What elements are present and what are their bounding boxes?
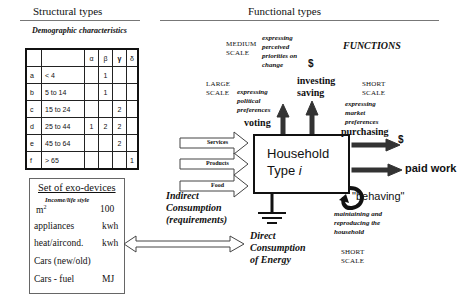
medium-scale-desc: expressing perceived priorities on chang… [262,34,304,70]
household-line1: Household [267,145,329,162]
input-services: Services [207,139,228,145]
paid-work-label: paid work [405,162,456,174]
input-products: Products [206,160,229,166]
short-scale-top-label: SHORT SCALE [362,80,386,98]
indirect-consumption-label: Indirect Consumption (requirements) [166,190,246,226]
voting-label: voting [244,117,271,128]
medium-scale-label: MEDIUM SCALE [226,40,256,58]
purchasing-label: purchasing [341,126,389,137]
behaving-label: "behaving" [352,190,404,202]
short-scale-bottom-label: SHORT SCALE [341,248,365,266]
household-box: Household Type i [253,134,350,194]
investing-saving-label: investing saving [297,75,337,99]
large-scale-desc: expressing political preferences [237,88,283,115]
exo-direct-arrow-icon [124,236,244,252]
behaving-desc: maintaining and reproducing the househol… [334,210,404,237]
paid-work-arrow-icon [388,164,402,176]
market-preferences-desc: expressing market preferences [345,100,390,127]
large-scale-label: LARGE SCALE [206,80,230,98]
direct-consumption-label: Direct Consumption of Energy [250,230,315,266]
investing-dollar-icon: $ [308,58,314,69]
input-food: Food [211,182,224,188]
purchasing-dollar-icon: $ [398,134,404,145]
functions-title: FUNCTIONS [343,40,401,51]
investing-arrow-icon [306,101,318,115]
household-line2: Type i [267,162,302,179]
